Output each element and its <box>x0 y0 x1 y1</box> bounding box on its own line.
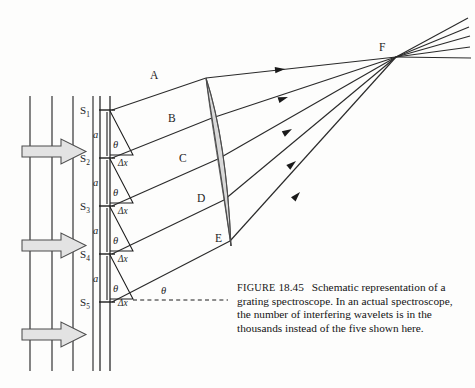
caption-figure-word: FIGURE <box>237 282 276 293</box>
rays-past-focus <box>396 18 471 58</box>
slit-subscript: 4 <box>86 254 90 263</box>
wavelet-ray-to-focus <box>218 57 396 159</box>
slit-subscript: 1 <box>86 110 90 119</box>
point-label-c: C <box>179 152 187 164</box>
focus-label-f: F <box>379 41 385 53</box>
angle-label-theta: θ <box>113 235 118 246</box>
wavelet-ray <box>112 118 212 158</box>
slit-subscript: 2 <box>86 158 90 167</box>
ray-arrowhead-icon <box>291 190 302 202</box>
angle-label-theta: θ <box>113 139 118 150</box>
spacing-label-a: a <box>93 225 98 236</box>
slit-label-s2: S2 <box>80 152 90 167</box>
crescent-inner-arc <box>206 78 231 246</box>
ray-arrowhead-icon <box>282 126 294 136</box>
path-difference-labels: Δx Δx Δx Δx <box>117 158 128 308</box>
point-label-d: D <box>197 192 205 204</box>
caption-line: Schematic representation of a <box>312 281 446 293</box>
slit-subscript: 5 <box>86 302 90 311</box>
angle-label-theta: θ <box>113 187 118 198</box>
point-label-b: B <box>168 112 176 124</box>
slit-label-s4: S4 <box>80 248 90 263</box>
path-difference-label: Δx <box>117 206 128 216</box>
angle-label-theta: θ <box>113 283 118 294</box>
propagation-arrow-icon <box>22 139 86 164</box>
propagation-arrow-icon <box>22 322 86 347</box>
figure-container: S1 S2 S3 S4 S5 a a a a θ θ θ <box>0 0 475 388</box>
figure-caption: FIGURE 18.45 Schematic representation of… <box>237 281 461 335</box>
wavelet-ray <box>112 200 224 254</box>
wavefront-crescent-region <box>206 78 231 246</box>
slit-subscript: 3 <box>86 206 90 215</box>
path-difference-label: Δx <box>117 254 128 264</box>
divergent-ray <box>396 36 470 57</box>
grating-plate <box>100 96 110 371</box>
ray-arrowheads <box>275 66 303 202</box>
wavelet-ray-to-focus <box>206 57 396 78</box>
point-label-a: A <box>150 69 159 81</box>
spacing-label-a: a <box>93 177 98 188</box>
caption-figure-number: 18.45 <box>278 281 303 293</box>
angle-label-theta-axis: θ <box>161 285 166 296</box>
wavelet-ray <box>112 78 206 110</box>
divergent-ray <box>396 57 471 58</box>
wavelet-ray <box>112 241 230 302</box>
slit-label-s5: S5 <box>80 296 90 311</box>
spacing-label-a: a <box>93 129 98 140</box>
propagation-arrow-icon <box>22 233 86 258</box>
path-difference-label: Δx <box>117 158 128 168</box>
propagation-arrows <box>22 139 86 347</box>
path-difference-label: Δx <box>117 298 128 308</box>
caption-line: five shown here. <box>349 322 424 334</box>
caption-line: grating spectroscope. In an actual <box>237 295 389 307</box>
divergent-ray <box>396 18 468 57</box>
slit-labels: S1 S2 S3 S4 S5 <box>80 104 90 311</box>
slit-label-s1: S1 <box>80 104 90 119</box>
spacing-label-a: a <box>93 273 98 284</box>
point-label-e: E <box>215 232 222 244</box>
spacing-labels: a a a a <box>93 129 98 284</box>
wavelet-rays <box>112 57 396 302</box>
slit-label-s3: S3 <box>80 200 90 215</box>
wavelet-ray-to-focus <box>224 57 396 200</box>
